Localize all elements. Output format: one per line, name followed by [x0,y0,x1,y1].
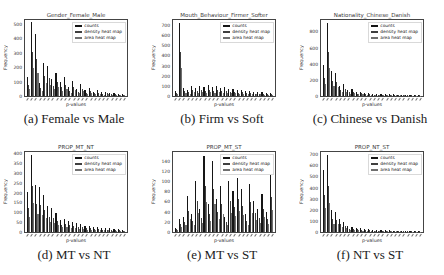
legend: countsdensity heat maparea heat map [72,22,126,44]
x-tick-mark [86,98,88,101]
x-tick-mark [377,98,379,101]
x-tick-mark [352,234,354,237]
legend-swatch-icon [223,37,230,39]
x-tick-mark [86,234,88,237]
legend-label: counts [232,24,246,29]
x-tick-mark [107,234,109,237]
y-tick-label: 100 [13,81,22,85]
x-tick-mark [115,98,117,101]
legend-item: counts [75,156,122,161]
x-tick-mark [81,234,83,237]
x-tick-mark [191,98,193,101]
x-tick-mark [183,234,185,237]
legend-swatch-icon [223,157,230,159]
x-tick-mark [35,234,37,237]
plot-area-wrap: Frequency 0100200300400500600700 countsd… [150,19,296,97]
x-tick-mark [208,234,210,237]
legend: countsdensity heat maparea heat map [368,22,422,44]
histogram-plot: countsdensity heat maparea heat map [24,19,128,97]
legend-item: counts [223,156,270,161]
legend-swatch-icon [75,157,82,159]
x-tick-mark [30,98,32,101]
x-tick-mark [47,234,49,237]
x-tick-mark [394,234,396,237]
x-tick-mark [246,234,248,237]
plot-area-wrap: Frequency 0100200300400500 countsdensity… [2,19,148,97]
y-tick-label: 500 [161,44,170,48]
plot-area-wrap: Frequency 050100150200250300350400 count… [2,151,148,233]
y-axis-label: Frequency [2,151,10,233]
legend-label: counts [84,24,98,29]
x-tick-mark [107,98,109,101]
legend-label: density heat map [84,30,122,35]
y-tick-label: 400 [309,63,318,67]
x-tick-mark [234,98,236,101]
y-tick-label: 150 [13,201,22,205]
plot-area-wrap: Frequency 0100200300400500600700 countsd… [298,151,444,233]
x-tick-mark [382,234,384,237]
x-tick-mark [343,234,345,237]
legend-swatch-icon [75,31,82,33]
x-tick-mark [183,98,185,101]
x-tick-mark [26,98,28,101]
x-tick-mark [221,98,223,101]
legend: countsdensity heat maparea heat map [368,154,422,176]
legend-label: area heat map [84,36,116,41]
legend-item: area heat map [371,36,418,41]
x-tick-mark [352,98,354,101]
x-tick-mark [407,234,409,237]
y-tick-label: 500 [13,23,22,27]
x-tick-mark [26,234,28,237]
y-axis-ticks: 0200400600800 [306,19,320,97]
legend-label: density heat map [232,30,270,35]
legend-swatch-icon [223,169,230,171]
x-tick-mark [420,234,422,237]
subplot-mt-vs-st: PROP_MT_ST Frequency 020406080100120140 … [148,137,296,275]
x-tick-mark [39,234,41,237]
x-tick-mark [217,98,219,101]
legend-item: density heat map [371,162,418,167]
x-tick-mark [356,98,358,101]
x-tick-mark [360,234,362,237]
legend-item: density heat map [75,30,122,35]
subplot-caption: (a) Female vs Male [0,111,148,127]
bar-area-heat-map [272,95,273,96]
legend: countsdensity heat maparea heat map [72,154,126,176]
x-tick-mark [386,98,388,101]
x-axis-ticks [24,97,128,101]
y-axis-ticks: 0100200300400500 [10,19,24,97]
x-tick-mark [124,234,126,237]
x-tick-mark [56,234,58,237]
x-tick-mark [191,234,193,237]
legend-label: area heat map [232,36,264,41]
x-tick-mark [386,234,388,237]
legend-item: counts [223,24,270,29]
x-tick-mark [403,234,405,237]
chart-title: PROP_MT_ST [172,144,276,151]
x-axis-ticks [320,97,424,101]
legend-label: counts [84,156,98,161]
x-tick-mark [195,234,197,237]
legend: countsdensity heat maparea heat map [220,154,274,176]
x-tick-mark [187,98,189,101]
x-tick-mark [373,98,375,101]
x-axis-label: p-values [320,238,424,243]
legend-label: area heat map [380,168,412,173]
x-tick-mark [39,98,41,101]
x-tick-mark [246,98,248,101]
x-tick-mark [229,98,231,101]
y-tick-label: 500 [309,175,318,179]
x-tick-mark [35,98,37,101]
x-tick-mark [365,98,367,101]
y-tick-label: 20 [164,221,170,225]
x-tick-mark [212,98,214,101]
y-tick-label: 400 [309,187,318,191]
bar-group [270,175,274,232]
x-tick-mark [255,234,257,237]
chart-title: PROP_MT_NT [24,144,128,151]
x-tick-mark [322,234,324,237]
legend-label: density heat map [232,162,270,167]
subplot-mt-vs-nt: PROP_MT_NT Frequency 0501001502002503003… [0,137,148,275]
subplot-caption: (b) Firm vs Soft [148,111,296,127]
x-tick-mark [60,234,62,237]
